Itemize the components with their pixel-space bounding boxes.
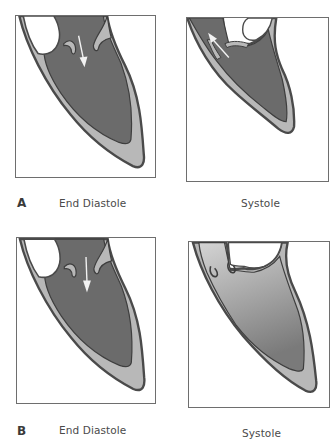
panel-a-systole-frame [186,17,329,182]
panel-b-label: B [17,424,26,438]
heart-ventricle-systole-illustration [187,18,328,181]
panel-a-left-caption: End Diastole [59,197,126,209]
heart-ventricle-diastole-illustration [17,238,155,403]
panel-a-label: A [17,196,26,210]
panel-b-right-caption: Systole [242,427,281,439]
panel-a-right-caption: Systole [241,197,280,209]
heart-ventricle-systole-gradient-illustration [189,242,329,407]
panel-b-left-caption: End Diastole [59,424,126,436]
panel-b-systole-frame [188,241,330,408]
panel-b-end-diastole-frame [16,237,156,404]
panel-a-end-diastole-frame [15,15,156,178]
heart-ventricle-diastole-illustration [16,16,155,177]
